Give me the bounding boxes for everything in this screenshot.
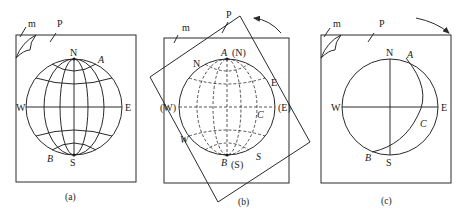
label-p: P xyxy=(379,18,385,29)
label-e-paren: (E) xyxy=(278,102,291,114)
panel-c: m P N S W E A B C (c) xyxy=(321,18,451,207)
label-a: A xyxy=(97,54,105,65)
label-n-rotated: N xyxy=(193,58,200,69)
label-e-rotated: E xyxy=(271,77,277,88)
pointer-p xyxy=(368,33,374,42)
label-s: S xyxy=(70,157,76,168)
label-a: A xyxy=(220,47,228,58)
label-e: E xyxy=(125,102,131,113)
pointer-m xyxy=(324,28,330,37)
panel-a: m P N S W E A B (a) xyxy=(16,18,136,203)
paper-corner-curl-icon xyxy=(321,35,341,58)
label-c: C xyxy=(257,109,264,120)
label-s-rotated: S xyxy=(256,151,261,162)
caption-c: (c) xyxy=(381,196,392,207)
label-w-paren: (W) xyxy=(160,102,176,114)
label-e: E xyxy=(441,102,447,113)
label-n-paren: (N) xyxy=(232,47,246,59)
label-n: N xyxy=(70,47,77,58)
wulff-net xyxy=(26,58,122,157)
label-m: m xyxy=(182,22,190,33)
pointer-p xyxy=(50,33,56,42)
label-w: W xyxy=(16,102,26,113)
label-n: N xyxy=(386,47,393,58)
label-a: A xyxy=(406,49,414,60)
label-s: S xyxy=(386,157,392,168)
label-m: m xyxy=(333,18,341,29)
label-b: B xyxy=(47,153,53,164)
paper-corner-curl-icon xyxy=(16,35,36,58)
caption-a: (a) xyxy=(65,192,76,203)
label-s-paren: (S) xyxy=(231,159,243,171)
pointer-m xyxy=(174,35,178,43)
rotate-ccw-arrow-icon xyxy=(254,18,281,33)
label-c: C xyxy=(420,118,427,129)
label-p: P xyxy=(226,9,232,20)
label-b: B xyxy=(365,152,371,163)
label-m: m xyxy=(28,18,36,29)
stereonet-procedure-diagram: m P N S W E A B (a) m P xyxy=(0,0,462,221)
label-b: B xyxy=(221,157,227,168)
dashed-wulff-net xyxy=(179,58,275,157)
panel-b: m P A (N) B (S) (W) (E) N E W S C (b) xyxy=(150,9,310,208)
great-circle-arc xyxy=(372,58,423,152)
caption-b: (b) xyxy=(238,197,249,208)
rotate-cw-arrow-icon xyxy=(416,18,449,33)
label-w: W xyxy=(331,102,341,113)
label-p: P xyxy=(57,18,63,29)
